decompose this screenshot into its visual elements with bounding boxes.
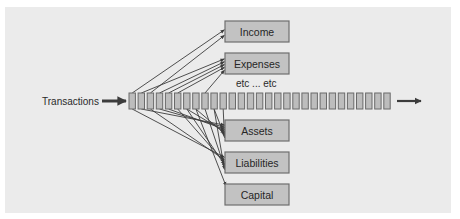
tape-cell: [384, 93, 390, 109]
tape-cell: [320, 93, 326, 109]
tape-cell: [329, 93, 335, 109]
tape-cell: [220, 93, 226, 109]
posting-arrow-expenses: [205, 70, 225, 93]
posting-arrow-expenses: [141, 59, 224, 93]
transaction-tape: [129, 93, 390, 109]
tape-cell: [275, 93, 281, 109]
tape-cell: [293, 93, 299, 109]
tape-cell: [338, 93, 344, 109]
tape-cell: [311, 93, 317, 109]
posting-arrow-assets: [196, 109, 225, 134]
tape-cell: [284, 93, 290, 109]
tape-cell: [165, 93, 171, 109]
tape-cell: [375, 93, 381, 109]
account-label-liabilities: Liabilities: [235, 157, 278, 169]
posting-arrow-capital: [196, 109, 226, 186]
account-box-capital: Capital: [225, 184, 289, 205]
posting-arrow-expenses: [178, 67, 225, 93]
tape-cell: [184, 93, 190, 109]
tape-cell: [238, 93, 244, 109]
tape-cell: [193, 93, 199, 109]
tape-cell: [366, 93, 372, 109]
tape-cell: [357, 93, 363, 109]
tape-cell: [129, 93, 135, 109]
tape-cell: [175, 93, 181, 109]
tape-cell: [266, 93, 272, 109]
etc-label: etc ... etc: [236, 78, 277, 89]
transactions-label: Transactions: [42, 96, 99, 107]
tape-cell: [211, 93, 217, 109]
tape-cell: [256, 93, 262, 109]
account-box-income: Income: [225, 21, 289, 42]
transaction-posting-diagram: Transactions etc ... etc Income Expenses…: [0, 0, 460, 219]
tape-cell: [347, 93, 353, 109]
account-box-assets: Assets: [225, 120, 289, 141]
account-label-income: Income: [240, 26, 275, 38]
tape-cell: [247, 93, 253, 109]
tape-cell: [147, 93, 153, 109]
account-label-capital: Capital: [241, 189, 274, 201]
account-box-liabilities: Liabilities: [225, 152, 289, 173]
tape-cell: [156, 93, 162, 109]
account-box-expenses: Expenses: [225, 53, 289, 74]
tape-cell: [138, 93, 144, 109]
account-label-assets: Assets: [241, 125, 273, 137]
posting-arrow-expenses: [160, 62, 225, 93]
tape-cell: [229, 93, 235, 109]
tape-cell: [302, 93, 308, 109]
account-label-expenses: Expenses: [234, 58, 280, 70]
tape-cell: [202, 93, 208, 109]
